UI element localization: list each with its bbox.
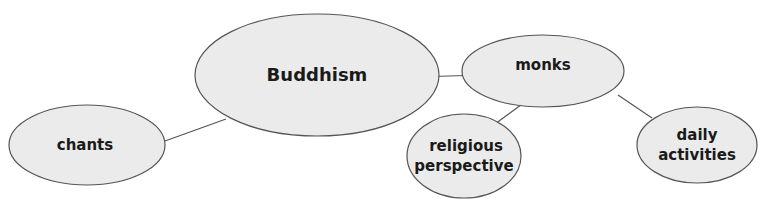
node-label-religious: religious (429, 137, 503, 155)
node-label-activities: activities (658, 146, 736, 164)
node-label-buddhism: Buddhism (267, 64, 368, 85)
node-chants: chants (9, 105, 165, 185)
node-religious-perspective: religious perspective (407, 114, 521, 198)
node-label-daily: daily (677, 126, 718, 144)
node-label-monks: monks (515, 56, 571, 74)
edge-chants-buddhism (165, 119, 226, 141)
node-daily-activities: daily activities (637, 107, 757, 183)
node-monks: monks (462, 35, 624, 107)
node-label-chants: chants (57, 136, 114, 154)
edge-monks-daily (618, 95, 652, 118)
node-label-perspective: perspective (414, 157, 513, 175)
concept-map: Buddhism chants monks religious perspect… (0, 0, 762, 202)
node-buddhism: Buddhism (195, 14, 439, 136)
